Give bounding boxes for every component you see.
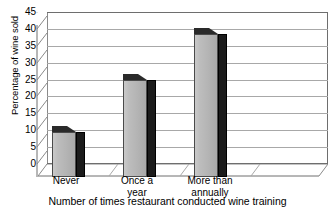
bar-once-a-year bbox=[123, 80, 147, 177]
gridline-5 bbox=[47, 147, 328, 148]
x-axis-title: Number of times restaurant conducted win… bbox=[0, 195, 335, 207]
bar-once-a-year-side bbox=[147, 80, 156, 177]
gridline-30 bbox=[47, 63, 328, 64]
y-tick-5: 5 bbox=[14, 143, 36, 151]
y-tick-45: 45 bbox=[14, 8, 36, 16]
gridline-40 bbox=[47, 29, 328, 30]
y-tick-25: 25 bbox=[14, 76, 36, 84]
bar-more-than-annually-front bbox=[194, 34, 218, 177]
gridline-10 bbox=[47, 130, 328, 131]
gridline-25 bbox=[47, 80, 328, 81]
gridline-15 bbox=[47, 113, 328, 114]
gridline-35 bbox=[47, 46, 328, 47]
bar-more-than-annually bbox=[194, 34, 218, 177]
y-tick-15: 15 bbox=[14, 109, 36, 117]
bar-more-than-annually-side bbox=[218, 34, 227, 177]
y-tick-20: 20 bbox=[14, 92, 36, 100]
plot-area bbox=[47, 12, 328, 164]
y-tick-35: 35 bbox=[14, 42, 36, 50]
bar-never-side bbox=[76, 132, 85, 177]
y-tick-10: 10 bbox=[14, 126, 36, 134]
bar-never bbox=[52, 132, 76, 177]
bar-chart: Percentage of wine sold 45 40 35 30 25 2… bbox=[0, 0, 335, 211]
gridline-45 bbox=[47, 12, 328, 13]
y-tick-40: 40 bbox=[14, 25, 36, 33]
bar-once-a-year-front bbox=[123, 80, 147, 177]
gridline-20 bbox=[47, 96, 328, 97]
plot-right-edge bbox=[327, 12, 328, 164]
bar-never-front bbox=[52, 132, 76, 177]
x-tick-label-never: Never bbox=[33, 175, 99, 187]
y-tick-30: 30 bbox=[14, 59, 36, 67]
plot-left-edge bbox=[47, 12, 48, 164]
y-tick-0: 0 bbox=[14, 160, 36, 168]
